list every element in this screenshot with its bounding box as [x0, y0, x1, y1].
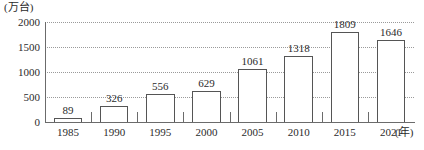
bar-slot: 1318 — [284, 22, 313, 122]
bar-value-label: 1646 — [380, 27, 402, 38]
x-tick-label: 2005 — [242, 126, 264, 138]
bar-value-label: 1318 — [288, 43, 310, 54]
bar — [54, 118, 83, 122]
bar-value-label: 1809 — [334, 19, 356, 30]
bar-value-label: 556 — [152, 81, 169, 92]
bar-series: 893265566291061131818091646 — [45, 22, 414, 122]
y-axis-unit-label: (万台) — [4, 1, 33, 14]
x-axis-unit-label: (年) — [395, 126, 413, 138]
bar — [377, 40, 406, 122]
bar-slot: 1646 — [377, 22, 406, 122]
bar — [146, 94, 175, 122]
y-tick-label: 500 — [0, 92, 40, 103]
bar-slot: 89 — [54, 22, 83, 122]
y-tick-label: 1000 — [0, 67, 40, 78]
y-tick-label: 2000 — [0, 17, 40, 28]
bar-slot: 629 — [192, 22, 221, 122]
x-tick-label: 2010 — [288, 126, 310, 138]
bar-chart: (万台) 0500100015002000 893265566291061131… — [0, 0, 424, 150]
x-tick-mark — [91, 112, 92, 122]
bar — [284, 56, 313, 122]
x-tick-label: 2015 — [334, 126, 356, 138]
x-tick-mark — [276, 112, 277, 122]
y-tick-label: 0 — [0, 117, 40, 128]
x-tick-mark — [183, 112, 184, 122]
bar-slot: 556 — [146, 22, 175, 122]
x-tick-mark — [230, 112, 231, 122]
x-tick-mark — [368, 112, 369, 122]
bar-value-label: 89 — [63, 105, 74, 116]
x-axis-line — [45, 122, 415, 123]
x-tick-label: 1990 — [103, 126, 125, 138]
x-tick-label: 2000 — [195, 126, 217, 138]
bar — [331, 32, 360, 122]
x-tick-label: 1995 — [149, 126, 171, 138]
bar — [238, 69, 267, 122]
bar — [192, 91, 221, 122]
y-tick-label: 1500 — [0, 42, 40, 53]
bar-value-label: 629 — [198, 78, 215, 89]
bar — [100, 106, 129, 122]
bar-slot: 1061 — [238, 22, 267, 122]
x-tick-label: 1985 — [57, 126, 79, 138]
bar-slot: 326 — [100, 22, 129, 122]
x-tick-mark — [322, 112, 323, 122]
bar-slot: 1809 — [331, 22, 360, 122]
bar-value-label: 1061 — [242, 56, 264, 67]
bar-value-label: 326 — [106, 93, 123, 104]
x-tick-mark — [137, 112, 138, 122]
